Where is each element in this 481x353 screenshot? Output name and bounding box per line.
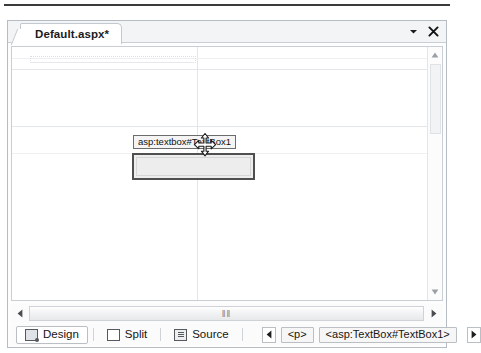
- design-view-icon: [25, 329, 38, 341]
- view-tab-separator-2: [160, 328, 161, 341]
- view-mode-tabs: Design Split Source: [16, 326, 248, 344]
- tag-navigator-breadcrumb: <p> <asp:TextBox#TextBox1>: [262, 327, 481, 343]
- document-tab-default-aspx[interactable]: Default.aspx*: [20, 23, 122, 44]
- chevron-down-icon[interactable]: [407, 24, 419, 38]
- vertical-scrollbar-thumb[interactable]: [430, 64, 441, 134]
- document-tab-strip: Default.aspx*: [8, 21, 446, 43]
- view-tab-separator-1: [93, 328, 94, 341]
- form-region-underline: [30, 62, 194, 63]
- scroll-right-arrow-icon[interactable]: [427, 306, 441, 321]
- tab-design-view[interactable]: Design: [16, 326, 88, 344]
- tab-strip-actions: [407, 24, 440, 38]
- layout-guide-horizontal-mid: [12, 126, 427, 127]
- breadcrumb-next-arrow-icon[interactable]: [467, 327, 481, 343]
- split-view-icon: [107, 329, 120, 341]
- aspnet-textbox-control[interactable]: [132, 153, 255, 180]
- document-window: Default.aspx*: [7, 20, 447, 348]
- vertical-scrollbar[interactable]: [427, 47, 442, 300]
- control-tag-badge-label: asp:textbox#TextBox1: [138, 137, 231, 147]
- tab-source-view-label: Source: [192, 329, 228, 341]
- view-tab-separator-3: [242, 328, 243, 341]
- horizontal-scrollbar-grip: ‖‖: [222, 309, 231, 318]
- close-icon[interactable]: [427, 24, 440, 38]
- scroll-down-arrow-icon[interactable]: [428, 285, 442, 299]
- horizontal-scrollbar-thumb[interactable]: ‖‖: [29, 306, 424, 321]
- control-tag-badge: asp:textbox#TextBox1: [133, 135, 236, 149]
- breadcrumb-item-textbox[interactable]: <asp:TextBox#TextBox1>: [319, 327, 457, 343]
- scroll-left-arrow-icon[interactable]: [13, 306, 27, 321]
- tab-split-view-label: Split: [125, 329, 147, 341]
- window-top-rule: [4, 4, 450, 6]
- source-view-icon: [174, 329, 187, 341]
- horizontal-scrollbar[interactable]: ‖‖: [11, 304, 443, 323]
- breadcrumb-item-p-label: <p>: [288, 329, 307, 340]
- designer-canvas-surface[interactable]: asp:textbox#TextBox1: [12, 47, 427, 300]
- tab-design-view-label: Design: [43, 329, 79, 341]
- designer-bottom-bar: Design Split Source: [11, 324, 443, 345]
- document-tab-label: Default.aspx*: [35, 28, 109, 40]
- layout-guide-horizontal-second: [12, 69, 427, 70]
- scroll-up-arrow-icon[interactable]: [428, 48, 442, 62]
- aspnet-textbox-inner: [136, 157, 251, 176]
- breadcrumb-item-p[interactable]: <p>: [281, 327, 314, 343]
- tab-source-view[interactable]: Source: [166, 326, 236, 344]
- designer-canvas-container[interactable]: asp:textbox#TextBox1: [11, 46, 443, 301]
- breadcrumb-item-textbox-label: <asp:TextBox#TextBox1>: [326, 329, 450, 340]
- tab-split-view[interactable]: Split: [99, 326, 155, 344]
- breadcrumb-prev-arrow-icon[interactable]: [262, 327, 276, 343]
- horizontal-scrollbar-track[interactable]: ‖‖: [29, 306, 423, 321]
